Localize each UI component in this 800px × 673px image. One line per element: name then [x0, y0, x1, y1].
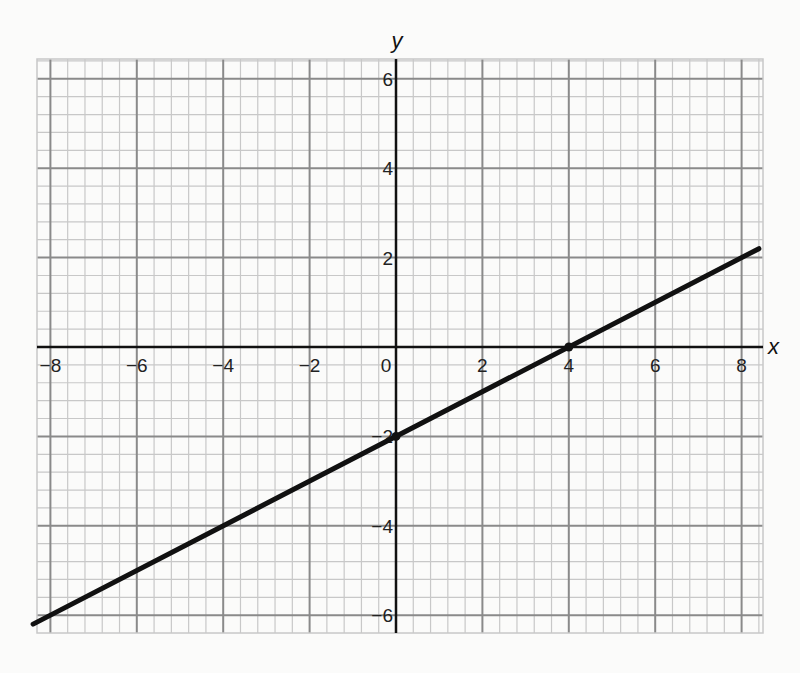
x-tick-label: 0 [381, 355, 392, 376]
x-tick-label: 6 [650, 355, 661, 376]
y-tick-label: −4 [371, 516, 393, 537]
x-tick-label: −4 [212, 355, 234, 376]
y-tick-label: 4 [382, 158, 393, 179]
x-tick-label: −8 [40, 355, 62, 376]
y-tick-label: 6 [382, 69, 393, 90]
x-tick-label: −6 [126, 355, 148, 376]
x-tick-label: 8 [736, 355, 747, 376]
axes [37, 59, 763, 633]
marked-point [564, 343, 573, 352]
y-axis-label: y [390, 28, 405, 53]
line-chart: −8−6−4−202468642−2−4−6 x y [0, 0, 800, 673]
x-axis-label: x [767, 334, 780, 359]
y-tick-label: 2 [382, 248, 393, 269]
x-tick-label: −2 [299, 355, 321, 376]
x-tick-label: 2 [477, 355, 488, 376]
marked-point [392, 432, 401, 441]
y-tick-label: −6 [371, 605, 393, 626]
x-tick-label: 4 [564, 355, 575, 376]
